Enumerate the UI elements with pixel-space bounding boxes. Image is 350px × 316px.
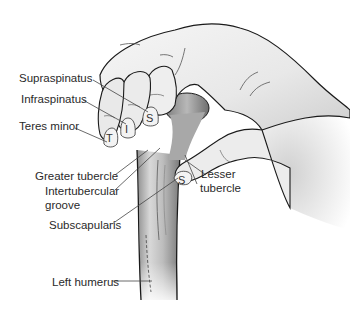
label-intertubercular-line2: groove	[45, 199, 80, 212]
fingertip-letter-s: S	[146, 112, 153, 124]
label-lesser-line2: tubercle	[200, 182, 241, 195]
label-supraspinatus: Supraspinatus	[19, 72, 93, 85]
label-infraspinatus: Infraspinatus	[21, 93, 87, 106]
hand-humerus-illustration: T I S S	[0, 0, 350, 316]
forearm	[262, 116, 350, 230]
label-teres-minor: Teres minor	[19, 120, 79, 133]
label-intertubercular-line1: Intertubercular	[45, 185, 119, 198]
label-lesser-line1: Lesser	[201, 168, 236, 181]
label-left-humerus: Left humerus	[52, 276, 119, 289]
fingertip-letter-t: T	[106, 132, 113, 144]
fingertip-letter-s-thumb: S	[178, 174, 185, 186]
fingertip-letter-i: I	[125, 123, 128, 135]
label-subscapularis: Subscapularis	[49, 219, 121, 232]
label-greater-tubercle: Greater tubercle	[35, 170, 118, 183]
anatomy-figure: T I S S Supraspinatus Infraspinatus Tere…	[0, 0, 350, 316]
